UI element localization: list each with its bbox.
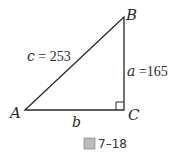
side-label-c: c = 253	[27, 48, 71, 64]
right-angle-marker	[116, 102, 124, 110]
vertex-label-c: C	[128, 106, 140, 124]
figure-icon	[84, 138, 95, 149]
figure-number: 7–18	[98, 137, 127, 151]
triangle-diagram: B A C b c = 253 a =165 7–18	[0, 0, 178, 158]
side-label-a: a =165	[127, 63, 168, 79]
vertex-label-b: B	[125, 6, 137, 24]
vertex-label-a: A	[8, 104, 21, 122]
figure-caption: 7–18	[84, 137, 127, 151]
side-label-b: b	[72, 114, 81, 130]
